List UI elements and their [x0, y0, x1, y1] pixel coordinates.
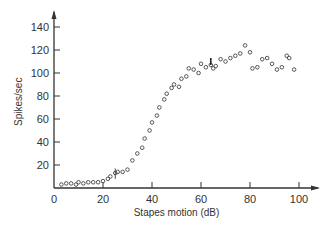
data-point — [170, 86, 174, 90]
data-point — [248, 51, 252, 55]
data-point — [150, 121, 154, 125]
x-axis-arrow-icon — [311, 186, 320, 191]
scatter-chart: 20406080100120140020406080100Stapes moti… — [0, 0, 334, 227]
axes — [52, 10, 321, 191]
data-point — [140, 146, 144, 150]
y-tick-label: 40 — [37, 136, 49, 148]
data-point — [60, 183, 64, 187]
data-point — [256, 65, 260, 69]
data-point — [126, 168, 130, 172]
data-point — [148, 129, 152, 133]
data-point — [251, 67, 255, 71]
data-point — [199, 62, 203, 66]
x-tick-label: 60 — [195, 193, 207, 205]
y-axis-arrow-icon — [52, 10, 57, 19]
data-point — [224, 60, 228, 64]
data-point — [185, 75, 189, 79]
data-point — [234, 54, 238, 58]
x-axis-title: Stapes motion (dB) — [134, 207, 220, 218]
data-point — [204, 65, 208, 69]
data-point — [77, 180, 81, 184]
data-point — [177, 85, 181, 89]
data-point — [229, 56, 233, 60]
data-point — [270, 62, 274, 66]
data-point — [172, 83, 176, 87]
data-point — [260, 57, 264, 61]
data-point — [214, 64, 218, 68]
x-tick-label: 40 — [146, 193, 158, 205]
y-tick-label: 60 — [37, 113, 49, 125]
y-tick-label: 140 — [31, 21, 49, 33]
data-point — [158, 106, 162, 110]
data-point — [155, 114, 159, 118]
data-point — [275, 68, 279, 72]
x-tick-label: 100 — [290, 193, 308, 205]
y-tick-label: 20 — [37, 159, 49, 171]
data-point — [121, 170, 125, 174]
x-tick-label: 80 — [244, 193, 256, 205]
data-point — [265, 56, 269, 60]
x-tick-label: 20 — [97, 193, 109, 205]
data-point — [292, 68, 296, 72]
data-point — [192, 68, 196, 72]
data-points — [60, 44, 296, 187]
data-point — [82, 182, 86, 186]
data-point — [131, 159, 135, 163]
y-tick-label: 120 — [31, 44, 49, 56]
data-point — [180, 77, 184, 81]
data-point — [280, 65, 284, 69]
y-tick-label: 80 — [37, 90, 49, 102]
data-point — [96, 180, 100, 184]
data-point — [162, 98, 166, 102]
data-point — [243, 44, 247, 48]
data-point — [91, 180, 95, 184]
x-tick-label: 0 — [51, 193, 57, 205]
data-point — [219, 57, 223, 61]
y-tick-label: 100 — [31, 67, 49, 79]
data-point — [165, 92, 169, 96]
data-point — [187, 67, 191, 71]
data-point — [197, 71, 201, 75]
data-point — [136, 152, 140, 156]
data-point — [287, 56, 291, 60]
y-axis-title: Spikes/sec — [13, 78, 24, 126]
data-point — [87, 180, 91, 184]
data-point — [69, 182, 73, 186]
data-point — [109, 175, 113, 179]
data-point — [143, 137, 147, 141]
data-point — [238, 52, 242, 56]
data-point — [64, 182, 68, 186]
